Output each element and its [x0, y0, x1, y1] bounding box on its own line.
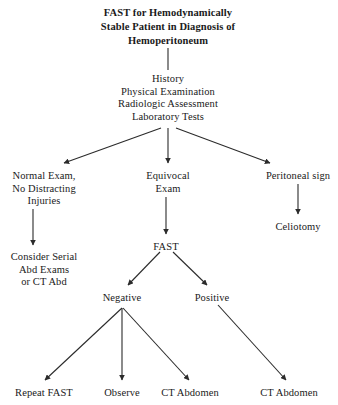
- edge-workup-to-normal-exam: [64, 128, 161, 163]
- node-consider-serial-line-3: or CT Abd: [11, 276, 78, 289]
- node-workup-line-2: Physical Examination: [118, 86, 218, 99]
- node-workup-line-3: Radiologic Assessment: [118, 98, 218, 111]
- node-ct-abdomen-positive-line-1: CT Abdomen: [260, 387, 318, 400]
- node-equivocal-exam-line-1: Equivocal: [146, 170, 189, 183]
- node-peritoneal-sign: Peritoneal sign: [266, 170, 330, 183]
- node-observe: Observe: [104, 387, 140, 400]
- node-equivocal-exam: EquivocalExam: [146, 170, 189, 195]
- node-celiotomy-line-1: Celiotomy: [275, 221, 320, 234]
- node-workup-line-1: History: [118, 73, 218, 86]
- node-normal-exam-line-3: Injuries: [12, 195, 76, 208]
- page-title-line-2: Stable Patient in Diagnosis of: [101, 20, 235, 34]
- node-observe-line-1: Observe: [104, 387, 140, 400]
- node-normal-exam: Normal Exam,No DistractingInjuries: [12, 170, 76, 208]
- node-ct-abdomen-positive: CT Abdomen: [260, 387, 318, 400]
- node-normal-exam-line-2: No Distracting: [12, 183, 76, 196]
- node-fast: FAST: [153, 241, 178, 254]
- node-ct-abdomen-negative-line-1: CT Abdomen: [161, 387, 219, 400]
- node-positive: Positive: [195, 292, 230, 305]
- node-ct-abdomen-negative: CT Abdomen: [161, 387, 219, 400]
- node-consider-serial-line-1: Consider Serial: [11, 251, 78, 264]
- edge-negative-to-ct-abdomen: [123, 308, 189, 380]
- node-repeat-fast-line-1: Repeat FAST: [15, 387, 73, 400]
- edge-workup-to-peritoneal-sign: [176, 128, 270, 163]
- node-celiotomy: Celiotomy: [275, 221, 320, 234]
- edge-positive-to-ct-abdomen: [218, 305, 286, 380]
- node-negative: Negative: [103, 292, 142, 305]
- node-consider-serial-line-2: Abd Exams: [11, 264, 78, 277]
- node-negative-line-1: Negative: [103, 292, 142, 305]
- node-workup: HistoryPhysical ExaminationRadiologic As…: [118, 73, 218, 123]
- node-peritoneal-sign-line-1: Peritoneal sign: [266, 170, 330, 183]
- edge-negative-to-repeat-fast: [45, 308, 122, 380]
- page-title-line-1: FAST for Hemodynamically: [101, 6, 235, 20]
- edge-fast-to-negative: [128, 252, 160, 285]
- node-fast-line-1: FAST: [153, 241, 178, 254]
- node-equivocal-exam-line-2: Exam: [146, 183, 189, 196]
- page-title-line-3: Hemoperitoneum: [101, 34, 235, 48]
- flowchart-canvas: FAST for Hemodynamically Stable Patient …: [0, 0, 338, 405]
- node-repeat-fast: Repeat FAST: [15, 387, 73, 400]
- page-title: FAST for Hemodynamically Stable Patient …: [101, 6, 235, 48]
- node-positive-line-1: Positive: [195, 292, 230, 305]
- node-consider-serial: Consider SerialAbd Examsor CT Abd: [11, 251, 78, 289]
- node-normal-exam-line-1: Normal Exam,: [12, 170, 76, 183]
- edge-fast-to-positive: [173, 252, 207, 285]
- node-workup-line-4: Laboratory Tests: [118, 111, 218, 124]
